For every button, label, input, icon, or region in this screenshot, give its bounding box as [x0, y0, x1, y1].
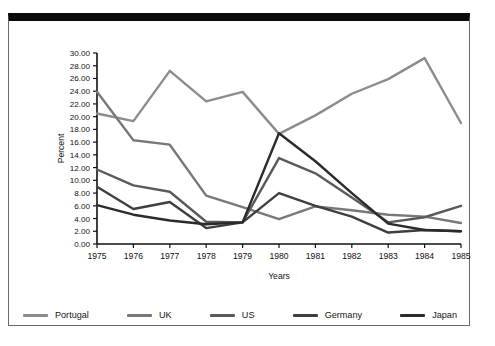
x-tick-label: 1975: [87, 251, 106, 261]
y-tick-label: 10.00: [70, 176, 91, 185]
chart-legend: PortugalUKUSGermanyJapan: [23, 304, 457, 326]
x-tick-label: 1980: [269, 251, 288, 261]
legend-swatch-icon: [293, 314, 318, 317]
y-tick-label: 12.00: [70, 164, 91, 173]
x-tick-label: 1979: [233, 251, 252, 261]
x-tick-label: 1977: [160, 251, 179, 261]
legend-item-us[interactable]: US: [210, 310, 255, 320]
y-tick-label: 18.00: [70, 125, 91, 134]
y-tick-label: 8.00: [74, 189, 90, 198]
legend-item-germany[interactable]: Germany: [293, 310, 362, 320]
legend-label: US: [242, 310, 255, 320]
legend-swatch-icon: [210, 314, 235, 317]
y-tick-label: 30.00: [70, 49, 91, 58]
x-tick-label: 1976: [124, 251, 143, 261]
chart-figure-frame: 0.002.004.006.008.0010.0012.0014.0016.00…: [8, 13, 470, 326]
x-tick-label: 1984: [415, 251, 434, 261]
legend-label: UK: [159, 310, 172, 320]
y-tick-label: 4.00: [74, 215, 90, 224]
x-tick-label: 1982: [342, 251, 361, 261]
y-tick-label: 22.00: [70, 100, 91, 109]
series-line-portugal: [97, 58, 461, 134]
y-tick-label: 20.00: [70, 113, 91, 122]
legend-label: Japan: [432, 310, 457, 320]
x-tick-label: 1985: [451, 251, 470, 261]
legend-item-uk[interactable]: UK: [127, 310, 172, 320]
y-tick-label: 0.00: [74, 240, 90, 249]
y-axis-title: Percent: [56, 133, 66, 163]
y-tick-label: 16.00: [70, 138, 91, 147]
x-axis-title: Years: [268, 271, 290, 281]
legend-label: Germany: [325, 310, 362, 320]
plot-area: 0.002.004.006.008.0010.0012.0014.0016.00…: [9, 21, 471, 334]
y-tick-label: 2.00: [74, 227, 90, 236]
y-tick-label: 24.00: [70, 87, 91, 96]
legend-swatch-icon: [23, 314, 48, 317]
legend-item-japan[interactable]: Japan: [400, 310, 457, 320]
y-tick-label: 28.00: [70, 62, 91, 71]
x-tick-label: 1978: [197, 251, 216, 261]
legend-swatch-icon: [400, 314, 425, 317]
legend-swatch-icon: [127, 314, 152, 317]
x-tick-label: 1981: [306, 251, 325, 261]
legend-item-portugal[interactable]: Portugal: [23, 310, 89, 320]
series-line-us: [97, 158, 461, 222]
x-tick-label: 1983: [379, 251, 398, 261]
legend-label: Portugal: [55, 310, 89, 320]
y-tick-label: 6.00: [74, 202, 90, 211]
line-chart: 0.002.004.006.008.0010.0012.0014.0016.00…: [9, 21, 471, 334]
y-tick-label: 14.00: [70, 151, 91, 160]
y-tick-label: 26.00: [70, 74, 91, 83]
